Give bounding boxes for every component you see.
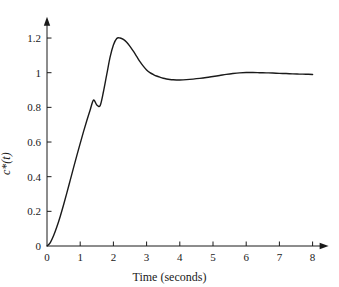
- y-axis-title: c*(t): [0, 152, 14, 175]
- x-tick-label: 3: [144, 252, 150, 263]
- x-tick-label: 2: [111, 252, 117, 263]
- y-tick-label: 0.8: [13, 102, 41, 113]
- y-tick-label: 0.6: [13, 137, 41, 148]
- x-tick-label: 5: [210, 252, 216, 263]
- y-tick-label: 0: [13, 241, 41, 252]
- y-tick-label: 0.2: [13, 206, 41, 217]
- x-tick-label: 6: [243, 252, 249, 263]
- chart-plot-area: [0, 0, 339, 287]
- y-tick-label: 1.2: [13, 33, 41, 44]
- x-tick-label: 4: [177, 252, 183, 263]
- x-tick-label: 0: [44, 252, 50, 263]
- chart-figure: 01234567800.20.40.60.811.2 c*(t) Time (s…: [0, 0, 339, 287]
- chart-data-series: [47, 38, 313, 246]
- y-tick-label: 1: [13, 67, 41, 78]
- x-tick-label: 8: [310, 252, 316, 263]
- x-tick-label: 1: [77, 252, 83, 263]
- chart-tick-marks: [47, 38, 313, 246]
- chart-axes: [44, 17, 329, 249]
- x-axis-title: Time (seconds): [0, 270, 339, 285]
- x-tick-label: 7: [277, 252, 283, 263]
- y-tick-label: 0.4: [13, 171, 41, 182]
